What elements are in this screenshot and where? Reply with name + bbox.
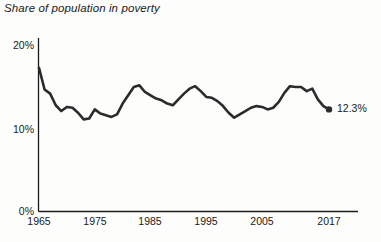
x-tick-1995: 1995 <box>176 215 236 227</box>
data-series-line <box>39 68 329 119</box>
x-tick-2017: 2017 <box>299 215 359 227</box>
end-point-marker <box>326 106 332 112</box>
y-tick-10: 10% <box>0 123 34 135</box>
x-tick-1965: 1965 <box>9 215 69 227</box>
x-tick-1985: 1985 <box>120 215 180 227</box>
axes <box>39 38 359 212</box>
poverty-line-chart: Share of population in poverty 20% 10% 0… <box>0 0 381 242</box>
x-tick-1975: 1975 <box>65 215 125 227</box>
x-tick-2005: 2005 <box>232 215 292 227</box>
end-point-label: 12.3% <box>337 102 367 114</box>
y-tick-20: 20% <box>0 39 34 51</box>
chart-plot-area <box>0 0 381 242</box>
